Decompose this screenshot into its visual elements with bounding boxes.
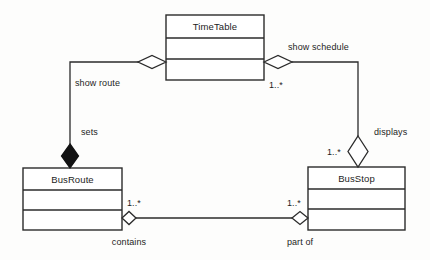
composition-diamond-sets[interactable] [62,144,79,168]
aggregation-diamond-show-route[interactable] [138,56,166,69]
association-line-show-schedule [292,62,358,136]
multiplicity-part-of: 1..* [287,198,301,208]
association-label-part-of: part of [287,237,314,247]
class-name-busstop: BusStop [338,173,375,184]
association-label-contains: contains [112,237,147,247]
multiplicity-contains: 1..* [127,198,141,208]
association-label-show-route: show route [75,78,120,88]
association-label-sets: sets [81,127,98,137]
diagram-svg: TimeTable BusRoute BusStop [0,0,430,260]
uml-class-diagram-canvas: TimeTable BusRoute BusStop [0,0,430,260]
association-label-displays: displays [374,127,408,137]
class-box-busroute[interactable]: BusRoute [23,168,122,230]
aggregation-diamond-contains[interactable] [122,212,136,225]
class-box-timetable[interactable]: TimeTable [166,15,264,80]
class-name-timetable: TimeTable [193,21,237,32]
aggregation-diamond-part-of[interactable] [292,212,308,225]
class-name-busroute: BusRoute [51,174,94,185]
class-box-busstop[interactable]: BusStop [308,167,405,230]
aggregation-diamond-displays[interactable] [348,136,368,167]
aggregation-diamond-show-schedule[interactable] [264,56,292,69]
multiplicity-displays: 1..* [327,147,341,157]
multiplicity-show-schedule: 1..* [269,80,283,90]
association-label-show-schedule: show schedule [288,42,349,52]
